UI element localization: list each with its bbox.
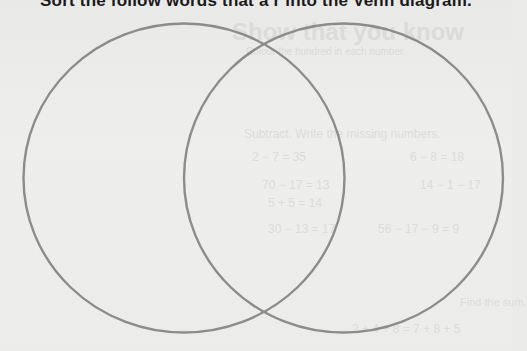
venn-diagram (0, 0, 512, 351)
worksheet-page: Show that you know Colour the hundred in… (0, 0, 512, 351)
